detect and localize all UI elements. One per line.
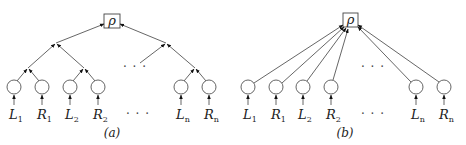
- ellipsis-upper-a: · · ·: [123, 60, 147, 74]
- leaf-label: Rn: [438, 107, 454, 124]
- leaf-node: [324, 80, 338, 94]
- leaf-label: L2: [64, 107, 79, 124]
- leaf-label: R1: [270, 107, 286, 124]
- leaf-label: L1: [242, 107, 257, 124]
- ellipsis-lower-a: · · ·: [126, 107, 150, 121]
- leaf-node: [409, 80, 423, 94]
- root-label-a: ρ: [107, 13, 116, 28]
- leaf-node: [91, 80, 105, 94]
- leaf-label: R1: [36, 107, 52, 124]
- leaf-labels-a: L1 R1 L2 R2 Ln Rn: [8, 107, 219, 124]
- leaf-label: Ln: [410, 107, 425, 124]
- leaf-label: L2: [297, 107, 312, 124]
- leaf-node: [35, 80, 49, 94]
- leaf-labels-b: L1 R1 L2 R2 Ln Rn: [242, 107, 454, 124]
- leaf-label: R2: [325, 107, 341, 124]
- leaf-node: [174, 80, 188, 94]
- ellipsis-upper-b: · · ·: [361, 60, 385, 74]
- leaf-node: [241, 80, 255, 94]
- caption-b: (b): [336, 126, 353, 140]
- leaf-node: [296, 80, 310, 94]
- caption-a: (a): [104, 126, 121, 140]
- leaf-label: Rn: [203, 107, 219, 124]
- root-label-b: ρ: [346, 12, 355, 27]
- diagram-canvas: ρ · · · · · · L1 R1 L2 R2 Ln Rn (a) ρ ·: [0, 0, 466, 145]
- leaf-node: [7, 80, 21, 94]
- ellipsis-lower-b: · · ·: [361, 107, 385, 121]
- leaf-label: R2: [92, 107, 108, 124]
- leaf-label: L1: [8, 107, 23, 124]
- leaf-label: Ln: [175, 107, 190, 124]
- leaf-node: [63, 80, 77, 94]
- leaf-node: [202, 80, 216, 94]
- leaf-node: [437, 80, 451, 94]
- leaf-node: [269, 80, 283, 94]
